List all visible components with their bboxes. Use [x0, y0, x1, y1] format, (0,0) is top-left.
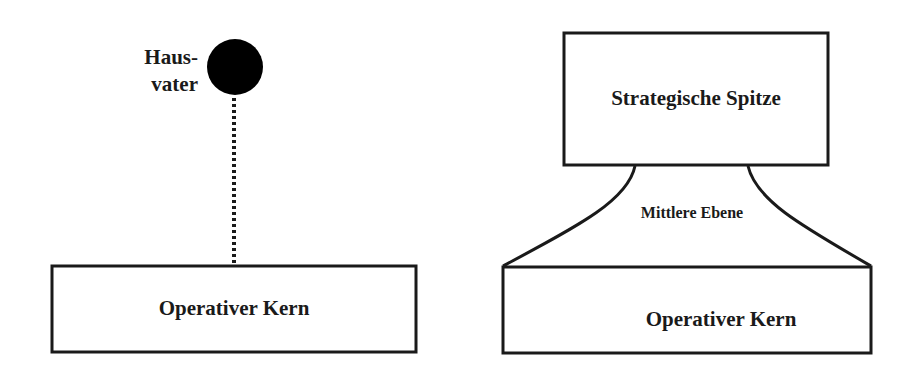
mittlere-ebene-left-curve	[503, 166, 635, 266]
mittlere-ebene-label: Mittlere Ebene	[630, 204, 754, 222]
strategische-spitze-label: Strategische Spitze	[564, 86, 828, 111]
left-operativer-kern-label: Operativer Kern	[52, 296, 416, 321]
diagram-canvas: Haus- vater Operativer Kern Strategische…	[0, 0, 916, 376]
hausvater-label-line1: Haus-	[128, 44, 198, 71]
mittlere-ebene-right-curve	[748, 166, 871, 266]
hausvater-label: Haus- vater	[128, 44, 198, 98]
right-operativer-kern-label: Operativer Kern	[596, 307, 846, 332]
hausvater-label-line2: vater	[128, 71, 198, 98]
hausvater-node	[207, 39, 263, 95]
